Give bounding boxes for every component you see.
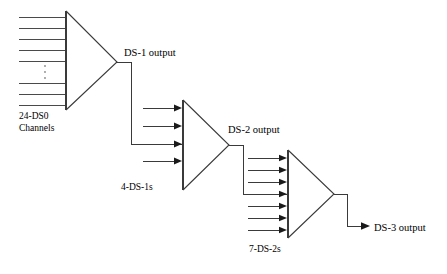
ds2-inputs-label: 7-DS-2s: [249, 244, 281, 254]
ds1-output-label: DS-1 output: [124, 47, 176, 58]
ds3-output-label: DS-3 output: [374, 222, 426, 233]
ds1-inputs-label: 4-DS-1s: [121, 182, 153, 192]
ds-multiplexing-hierarchy-diagram: 24-DS0 Channels DS-1 output: [0, 0, 447, 274]
diagram-canvas: 24-DS0 Channels DS-1 output: [0, 0, 447, 274]
ds2-output-label: DS-2 output: [228, 124, 280, 135]
input-channels-label-line2: Channels: [19, 123, 55, 133]
input-channels-label-line1: 24-DS0: [19, 111, 49, 121]
